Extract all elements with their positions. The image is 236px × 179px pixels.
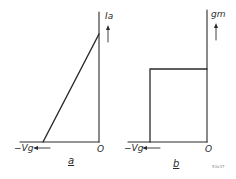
panel-b-y-axis-label: gm <box>211 10 225 19</box>
panel-a-x-axis-label: −Vg <box>14 144 33 153</box>
panel-b-up-arrow-icon <box>214 23 218 28</box>
panel-b-label: b <box>173 159 179 169</box>
panel-b-gm-step <box>150 69 207 142</box>
figure-tag: 53x37 <box>212 165 225 169</box>
panel-a-y-axis-label: Ia <box>105 12 113 21</box>
panel-a-up-arrow-icon <box>106 25 110 30</box>
panel-b-origin-label: O <box>205 145 212 154</box>
panel-b-graph <box>128 10 218 150</box>
panel-a-origin-label: O <box>97 145 104 154</box>
panel-a-label: a <box>68 156 74 166</box>
diagram-canvas <box>0 0 236 179</box>
panel-a-left-arrow-icon <box>33 146 38 150</box>
panel-b-x-axis-label: −Vg <box>124 144 143 153</box>
panel-a-graph <box>20 12 110 150</box>
panel-a-ia-curve <box>43 34 99 142</box>
